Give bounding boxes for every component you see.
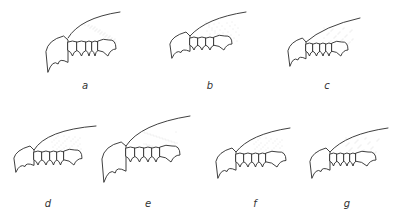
panel-label-d: d xyxy=(45,198,51,209)
jaw-drawing-d xyxy=(12,124,102,184)
carnassial-tooth xyxy=(160,145,180,162)
premolar-tooth xyxy=(135,147,144,162)
panel-f xyxy=(214,126,304,186)
jaw-drawing-f xyxy=(214,126,304,186)
premolar-tooth xyxy=(236,153,244,167)
premolar-tooth xyxy=(144,147,152,162)
canine-tooth xyxy=(310,148,330,178)
panel-d xyxy=(12,124,102,184)
canine-tooth xyxy=(102,142,126,182)
premolar-tooth xyxy=(320,43,326,56)
panel-b xyxy=(166,10,256,70)
skull-outline xyxy=(126,116,190,146)
premolar-tooth xyxy=(152,147,160,162)
carnassial-tooth xyxy=(64,149,82,165)
panel-label-e: e xyxy=(145,198,151,209)
jaw-drawing-c xyxy=(284,16,374,76)
panel-a xyxy=(40,10,130,80)
panel-g xyxy=(308,126,394,186)
jaw-drawing-a xyxy=(40,10,130,80)
premolar-tooth xyxy=(77,41,86,56)
carnassial-tooth xyxy=(266,151,286,167)
panel-label-g: g xyxy=(344,198,350,209)
premolar-tooth xyxy=(190,37,198,50)
premolar-tooth xyxy=(57,151,64,165)
panel-e xyxy=(100,114,195,186)
premolar-tooth xyxy=(326,43,332,56)
canine-tooth xyxy=(14,146,34,172)
premolar-tooth xyxy=(244,153,252,167)
premolar-tooth xyxy=(259,153,266,167)
carnassial-tooth xyxy=(98,39,116,56)
skull-outline xyxy=(34,126,96,150)
panel-c xyxy=(284,16,374,76)
jaw-drawing-b xyxy=(166,10,256,70)
panel-label-c: c xyxy=(324,80,330,91)
premolar-tooth xyxy=(350,153,356,166)
premolar-tooth xyxy=(68,41,77,56)
premolar-tooth xyxy=(252,153,259,167)
premolar-tooth xyxy=(344,153,350,166)
skull-outline xyxy=(68,12,120,38)
canine-tooth xyxy=(288,38,306,66)
premolar-tooth xyxy=(34,151,42,165)
canine-tooth xyxy=(170,32,190,58)
premolar-tooth xyxy=(126,147,135,162)
skull-outline xyxy=(190,12,246,36)
panel-label-b: b xyxy=(207,80,213,91)
panel-label-a: a xyxy=(82,80,88,91)
premolar-tooth xyxy=(330,153,337,166)
premolar-tooth xyxy=(50,151,57,165)
premolar-tooth xyxy=(306,43,313,56)
premolar-tooth xyxy=(313,43,320,56)
jaw-drawing-e xyxy=(100,114,195,186)
jaw-drawing-g xyxy=(308,126,394,186)
carnassial-tooth xyxy=(356,151,376,166)
carnassial-tooth xyxy=(332,41,348,56)
canine-tooth xyxy=(216,148,236,178)
carnassial-tooth xyxy=(214,35,232,50)
premolar-tooth xyxy=(206,37,214,50)
panel-label-f: f xyxy=(253,198,257,209)
premolar-tooth xyxy=(337,153,344,166)
skull-outline xyxy=(330,128,388,152)
premolar-tooth xyxy=(92,41,98,56)
canine-tooth xyxy=(46,36,68,72)
premolar-tooth xyxy=(86,41,92,56)
premolar-tooth xyxy=(198,37,206,50)
premolar-tooth xyxy=(42,151,50,165)
